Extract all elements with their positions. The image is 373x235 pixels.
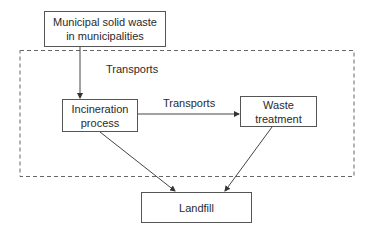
node-label-line1: Incineration xyxy=(72,102,129,116)
node-municipal-solid-waste: Municipal solid waste in municipalities xyxy=(44,11,166,47)
node-label-line2: in municipalities xyxy=(53,29,157,43)
node-label-line1: Waste xyxy=(255,98,301,112)
node-label-line2: treatment xyxy=(255,112,301,126)
node-incineration-process: Incineration process xyxy=(62,99,138,132)
arrow-incineration-to-landfill xyxy=(100,132,175,191)
node-label-line2: process xyxy=(72,116,129,130)
arrow-treatment-to-landfill xyxy=(225,127,272,191)
node-waste-treatment: Waste treatment xyxy=(240,96,317,127)
node-label-line1: Municipal solid waste xyxy=(53,15,157,29)
edge-label-transports: Transports xyxy=(163,97,215,110)
node-label: Landfill xyxy=(179,201,214,215)
group-label-transports: Transports xyxy=(106,63,158,76)
node-landfill: Landfill xyxy=(141,192,252,223)
